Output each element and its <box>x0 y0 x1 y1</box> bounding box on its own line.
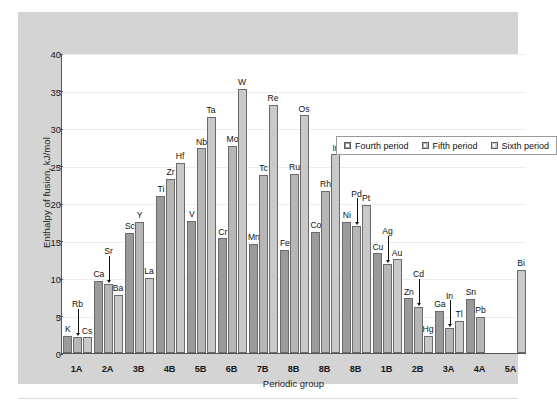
bar-Hf <box>176 163 185 354</box>
x-tick-label-12: 3A <box>443 364 455 374</box>
bar-label-Sr: Sr <box>104 247 113 256</box>
bar-label-In: In <box>446 292 453 301</box>
x-tick-label-14: 5A <box>505 364 517 374</box>
bar-label-K: K <box>65 325 71 334</box>
x-tick-label-8: 8B <box>319 364 331 374</box>
bar-label-Nb: Nb <box>196 138 207 147</box>
bar-label-Pt: Pt <box>362 194 370 203</box>
bar-label-Co: Co <box>310 221 321 230</box>
bar-Pt <box>362 205 371 354</box>
x-tick-label-6: 7B <box>257 364 269 374</box>
bar-Pb <box>476 317 485 353</box>
x-tick-label-0: 1A <box>71 364 83 374</box>
callout-leader-Rb <box>78 309 79 333</box>
bar-label-Zr: Zr <box>166 168 174 177</box>
bar-Ir <box>331 154 340 353</box>
callout-arrowhead-Rb <box>76 333 80 336</box>
bar-K <box>63 336 72 353</box>
bar-label-Os: Os <box>299 105 310 114</box>
bar-label-Cs: Cs <box>82 327 93 336</box>
bar-label-Bi: Bi <box>517 259 525 268</box>
plot-area: 0510152025303540 KRbCsCaSrBaScYLaTiZrHfV… <box>61 54 526 354</box>
bar-label-Sc: Sc <box>125 222 135 231</box>
bar-Cu <box>373 253 382 353</box>
callout-leader-Cd <box>419 279 420 303</box>
legend-label: Sixth period <box>502 141 550 151</box>
bar-Ag <box>383 264 392 353</box>
legend-item-2: Sixth period <box>491 141 550 151</box>
bar-series-layer: KRbCsCaSrBaScYLaTiZrHfVNbTaCrMoWMnTcReFe… <box>62 54 526 353</box>
callout-leader-Sr <box>109 256 110 280</box>
x-tick-label-10: 1B <box>381 364 393 374</box>
bar-Au <box>393 259 402 353</box>
bar-label-Sn: Sn <box>466 288 477 297</box>
callout-arrowhead-Ag <box>386 260 390 263</box>
x-tick-label-9: 8B <box>350 364 362 374</box>
bar-Mo <box>228 146 237 353</box>
bar-Zr <box>166 179 175 353</box>
legend-item-1: Fifth period <box>422 141 478 151</box>
bar-label-Pd: Pd <box>351 190 362 199</box>
bar-Rh <box>321 191 330 353</box>
bar-V <box>187 221 196 353</box>
bar-label-Hf: Hf <box>176 152 185 161</box>
bar-Co <box>311 232 320 354</box>
bar-label-Ba: Ba <box>113 284 124 293</box>
x-tick-label-11: 2B <box>412 364 424 374</box>
bar-label-Au: Au <box>392 249 403 258</box>
bar-In <box>445 328 454 353</box>
legend-label: Fourth period <box>355 141 409 151</box>
callout-leader-In <box>450 300 451 324</box>
bar-label-Ag: Ag <box>382 227 393 236</box>
legend-label: Fifth period <box>433 141 478 151</box>
bar-label-Pb: Pb <box>475 306 486 315</box>
bar-Sc <box>125 233 134 353</box>
square-swatch-dark-icon <box>344 142 351 149</box>
bar-Ru <box>290 174 299 353</box>
bar-Re <box>269 105 278 353</box>
bar-Tc <box>259 175 268 354</box>
legend: Fourth periodFifth periodSixth period <box>336 136 557 155</box>
legend-item-0: Fourth period <box>344 141 409 151</box>
bar-Ti <box>156 196 165 354</box>
bar-Ca <box>94 281 103 353</box>
bar-Mn <box>249 244 258 354</box>
callout-arrowhead-Sr <box>107 280 111 283</box>
callout-leader-Ag <box>388 236 389 260</box>
bar-Sr <box>104 284 113 353</box>
bar-Tl <box>455 321 464 353</box>
bar-label-Tl: Tl <box>456 310 463 319</box>
bar-Nb <box>197 148 206 353</box>
bar-label-Cd: Cd <box>413 270 424 279</box>
bar-label-Ca: Ca <box>93 270 104 279</box>
bar-La <box>145 278 154 353</box>
bar-Rb <box>73 337 82 354</box>
bar-label-Tc: Tc <box>259 164 268 173</box>
bar-label-Ga: Ga <box>434 300 445 309</box>
x-tick-label-13: 4A <box>474 364 486 374</box>
bar-Cr <box>218 238 227 353</box>
bottom-divider <box>18 398 518 399</box>
bar-Ga <box>435 311 444 353</box>
bar-label-Fe: Fe <box>280 239 290 248</box>
bar-label-Ta: Ta <box>207 106 216 115</box>
x-tick-label-3: 4B <box>164 364 176 374</box>
bar-W <box>238 89 247 353</box>
callout-leader-Pd <box>357 198 358 222</box>
bar-label-Ru: Ru <box>289 163 300 172</box>
x-axis-title: Periodic group <box>61 378 526 389</box>
x-tick-label-7: 8B <box>288 364 300 374</box>
bar-Ni <box>342 222 351 353</box>
bar-Ta <box>207 117 216 353</box>
bar-Os <box>300 115 309 353</box>
bar-label-Ni: Ni <box>343 211 351 220</box>
bar-Hg <box>424 336 433 353</box>
x-tick-label-1: 2A <box>102 364 114 374</box>
bar-Cs <box>83 337 92 353</box>
x-tick-label-4: 5B <box>195 364 207 374</box>
callout-arrowhead-Cd <box>417 303 421 306</box>
bar-Sn <box>466 299 475 353</box>
bar-label-Rh: Rh <box>320 180 331 189</box>
bar-label-Hg: Hg <box>423 325 434 334</box>
bar-Fe <box>280 250 289 354</box>
